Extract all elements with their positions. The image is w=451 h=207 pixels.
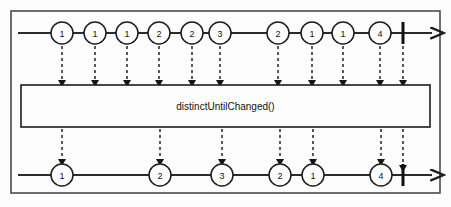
marble[interactable]: 1 <box>301 22 323 44</box>
marble[interactable]: 2 <box>149 164 171 186</box>
marble[interactable]: 1 <box>116 22 138 44</box>
marble-circle[interactable] <box>301 22 323 44</box>
marble-circle[interactable] <box>149 164 171 186</box>
marble-diagram-canvas: 1 1 1 2 2 <box>0 0 451 207</box>
marble-circle[interactable] <box>51 164 73 186</box>
marble-circle[interactable] <box>370 164 392 186</box>
marble-circle[interactable] <box>369 22 391 44</box>
marble[interactable]: 2 <box>148 22 170 44</box>
marble[interactable]: 1 <box>51 164 73 186</box>
marble-circle[interactable] <box>148 22 170 44</box>
marble-circle[interactable] <box>269 164 291 186</box>
marble[interactable]: 2 <box>269 164 291 186</box>
marble[interactable]: 1 <box>51 22 73 44</box>
marble[interactable]: 1 <box>84 22 106 44</box>
marble-circle[interactable] <box>51 22 73 44</box>
marble[interactable]: 2 <box>181 22 203 44</box>
marble-circle[interactable] <box>267 22 289 44</box>
marble[interactable]: 4 <box>370 164 392 186</box>
marble-diagram: 1 1 1 2 2 <box>0 0 451 207</box>
marble-circle[interactable] <box>302 164 324 186</box>
marble[interactable]: 4 <box>369 22 391 44</box>
operator-label: distinctUntilChanged() <box>176 101 274 112</box>
marble[interactable]: 1 <box>332 22 354 44</box>
marble[interactable]: 2 <box>267 22 289 44</box>
marble[interactable]: 1 <box>302 164 324 186</box>
source-marbles: 1 1 1 2 2 <box>51 22 391 44</box>
marble-circle[interactable] <box>332 22 354 44</box>
marble-circle[interactable] <box>84 22 106 44</box>
marble-circle[interactable] <box>211 164 233 186</box>
marble-circle[interactable] <box>181 22 203 44</box>
marble-circle[interactable] <box>209 22 231 44</box>
marble-circle[interactable] <box>116 22 138 44</box>
marble[interactable]: 3 <box>209 22 231 44</box>
operator-box[interactable]: distinctUntilChanged() <box>21 85 430 127</box>
marble[interactable]: 3 <box>211 164 233 186</box>
